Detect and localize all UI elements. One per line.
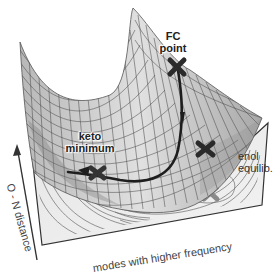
keto-label-line2: minimum: [64, 142, 116, 154]
energy-surface-diagram: FC point keto minimum enol equilib. O - …: [0, 0, 276, 276]
enol-label-line1: enol: [238, 150, 273, 162]
enol-equilibrium-label: enol equilib.: [238, 150, 273, 174]
keto-minimum-label: keto minimum: [64, 130, 116, 154]
surface-plot: [0, 0, 276, 276]
fc-label-line1: FC: [158, 30, 188, 42]
fc-point-label: FC point: [158, 30, 188, 54]
keto-label-line1: keto: [64, 130, 116, 142]
enol-label-line2: equilib.: [238, 162, 273, 174]
fc-label-line2: point: [158, 42, 188, 54]
